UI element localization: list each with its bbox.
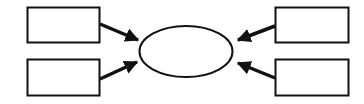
box-bottom-left	[28, 60, 100, 96]
box-bottom-right	[276, 60, 349, 96]
arrow-top-left-icon	[100, 24, 138, 40]
box-top-right	[276, 8, 349, 43]
center-ellipse	[140, 26, 233, 77]
arrow-bottom-left-icon	[100, 62, 137, 79]
diagram-canvas	[0, 0, 364, 104]
arrow-top-right-icon	[238, 26, 275, 40]
box-top-left	[28, 8, 100, 43]
arrow-bottom-right-icon	[238, 63, 275, 78]
